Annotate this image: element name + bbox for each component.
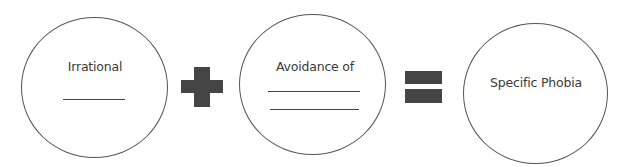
result-circle-specific-phobia — [463, 23, 608, 164]
term-circle-irrational — [21, 17, 168, 158]
plus-icon — [181, 67, 223, 107]
blank-line-avoidance-1[interactable] — [268, 91, 360, 92]
term-label-avoidance: Avoidance of — [265, 59, 365, 74]
blank-line-irrational[interactable] — [63, 99, 125, 100]
term-circle-avoidance — [239, 14, 386, 155]
term-label-irrational: Irrational — [55, 59, 135, 74]
blank-line-avoidance-2[interactable] — [270, 109, 359, 110]
result-label-specific-phobia: Specific Phobia — [480, 75, 592, 90]
equals-icon — [405, 71, 442, 103]
